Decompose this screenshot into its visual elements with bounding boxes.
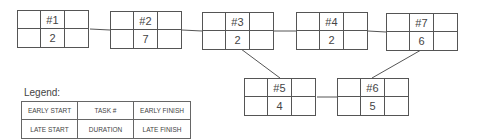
early-finish bbox=[344, 13, 367, 31]
early-start bbox=[203, 13, 226, 31]
late-finish bbox=[344, 31, 367, 49]
early-finish bbox=[65, 11, 88, 29]
late-finish bbox=[65, 29, 88, 47]
late-finish bbox=[292, 97, 315, 115]
task-number: #7 bbox=[410, 14, 433, 32]
late-finish bbox=[385, 97, 408, 115]
task-number: #2 bbox=[134, 12, 157, 30]
late-start bbox=[338, 97, 361, 115]
edge-1-2 bbox=[90, 29, 110, 30]
legend-title: Legend: bbox=[24, 87, 60, 98]
late-finish bbox=[158, 30, 181, 48]
early-start bbox=[111, 12, 134, 30]
legend-early-finish: EARLY FINISH bbox=[134, 102, 190, 120]
legend-late-start: LATE START bbox=[22, 120, 78, 138]
late-start bbox=[111, 30, 134, 48]
task-node-1: #1 2 bbox=[17, 10, 89, 48]
late-start bbox=[245, 97, 268, 115]
task-node-2: #2 7 bbox=[110, 11, 182, 49]
legend-early-start: EARLY START bbox=[22, 102, 78, 120]
early-start bbox=[245, 79, 268, 97]
late-start bbox=[203, 31, 226, 49]
late-finish bbox=[434, 32, 457, 50]
duration: 5 bbox=[361, 97, 384, 115]
early-finish bbox=[292, 79, 315, 97]
early-start bbox=[387, 14, 410, 32]
early-start bbox=[18, 11, 41, 29]
duration: 7 bbox=[134, 30, 157, 48]
task-node-7: #7 6 bbox=[386, 13, 458, 51]
early-finish bbox=[250, 13, 273, 31]
task-node-6: #6 5 bbox=[337, 78, 409, 116]
task-node-3: #3 2 bbox=[202, 12, 274, 50]
duration: 4 bbox=[268, 97, 291, 115]
late-start bbox=[387, 32, 410, 50]
late-finish bbox=[250, 31, 273, 49]
task-number: #6 bbox=[361, 79, 384, 97]
late-start bbox=[297, 31, 320, 49]
early-start bbox=[297, 13, 320, 31]
duration: 2 bbox=[226, 31, 249, 49]
duration: 6 bbox=[410, 32, 433, 50]
early-finish bbox=[434, 14, 457, 32]
edge-4-7 bbox=[368, 31, 386, 32]
early-finish bbox=[158, 12, 181, 30]
legend-duration: DURATION bbox=[78, 120, 134, 138]
task-number: #4 bbox=[320, 13, 343, 31]
duration: 2 bbox=[41, 29, 64, 47]
task-number: #5 bbox=[268, 79, 291, 97]
legend-table: EARLY START TASK # EARLY FINISH LATE STA… bbox=[21, 101, 191, 139]
legend-late-finish: LATE FINISH bbox=[134, 120, 190, 138]
late-start bbox=[18, 29, 41, 47]
edge-2-3 bbox=[182, 30, 202, 31]
edge-3-5 bbox=[241, 49, 280, 78]
task-number: #3 bbox=[226, 13, 249, 31]
task-node-5: #5 4 bbox=[244, 78, 316, 116]
early-finish bbox=[385, 79, 408, 97]
duration: 2 bbox=[320, 31, 343, 49]
task-number: #1 bbox=[41, 11, 64, 29]
edge-6-7 bbox=[372, 50, 421, 78]
legend-task-number: TASK # bbox=[78, 102, 134, 120]
task-node-4: #4 2 bbox=[296, 12, 368, 50]
early-start bbox=[338, 79, 361, 97]
